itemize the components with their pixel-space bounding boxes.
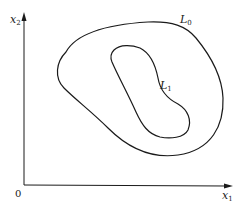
x-axis-label: x1	[222, 190, 233, 203]
y-axis-arrow-icon	[22, 12, 27, 21]
curve-l0	[57, 22, 223, 156]
origin-label: 0	[15, 189, 21, 199]
x-axis	[24, 184, 233, 189]
y-axis	[22, 12, 27, 185]
curve-l1-label: L1	[160, 80, 172, 93]
y-axis-label: x2	[10, 14, 21, 27]
level-curves-diagram: x2 x1 0 L0 L1	[0, 0, 245, 207]
curve-l1	[111, 46, 190, 138]
curve-l0-label: L0	[180, 14, 192, 27]
x-axis-arrow-icon	[224, 184, 233, 189]
